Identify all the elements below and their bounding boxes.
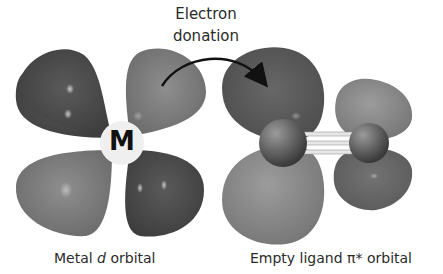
ligand-orbital-caption: Empty ligand π* orbital bbox=[250, 250, 412, 267]
metal-caption-prefix: Metal bbox=[54, 250, 97, 266]
annotation-line-2: donation bbox=[146, 26, 266, 46]
metal-orbital-caption: Metal d orbital bbox=[54, 250, 156, 267]
metal-label: M bbox=[96, 123, 148, 159]
ligand-pi-star-orbital bbox=[222, 47, 412, 244]
metal-caption-italic: d bbox=[97, 250, 106, 266]
ligand-atom-right bbox=[349, 123, 389, 163]
metal-caption-suffix: orbital bbox=[106, 250, 156, 266]
annotation-line-1: Electron bbox=[146, 4, 266, 24]
d-lobe-bottom-right bbox=[125, 150, 204, 237]
ligand-atom-left bbox=[259, 119, 307, 167]
